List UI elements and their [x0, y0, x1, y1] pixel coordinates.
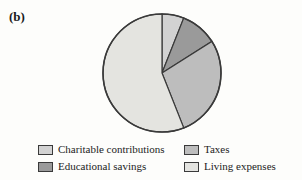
- pie-chart: [102, 13, 222, 133]
- pie-chart-svg: [102, 13, 222, 133]
- legend-swatch-taxes: [184, 145, 199, 155]
- figure-panel-b: (b) Charitable contributions Taxes Educa…: [0, 0, 302, 180]
- panel-label: (b): [9, 9, 25, 25]
- legend-swatch-charitable-contributions: [38, 145, 53, 155]
- legend-item-charitable-contributions[interactable]: Charitable contributions: [38, 144, 184, 155]
- legend-swatch-living-expenses: [184, 162, 199, 172]
- chart-legend: Charitable contributions Taxes Education…: [38, 141, 296, 175]
- legend-item-living-expenses[interactable]: Living expenses: [184, 161, 296, 172]
- legend-item-taxes[interactable]: Taxes: [184, 144, 296, 155]
- legend-label-living-expenses: Living expenses: [204, 161, 276, 172]
- legend-item-educational-savings[interactable]: Educational savings: [38, 161, 184, 172]
- legend-label-taxes: Taxes: [204, 144, 230, 155]
- legend-label-charitable-contributions: Charitable contributions: [58, 144, 165, 155]
- legend-label-educational-savings: Educational savings: [58, 161, 146, 172]
- legend-swatch-educational-savings: [38, 162, 53, 172]
